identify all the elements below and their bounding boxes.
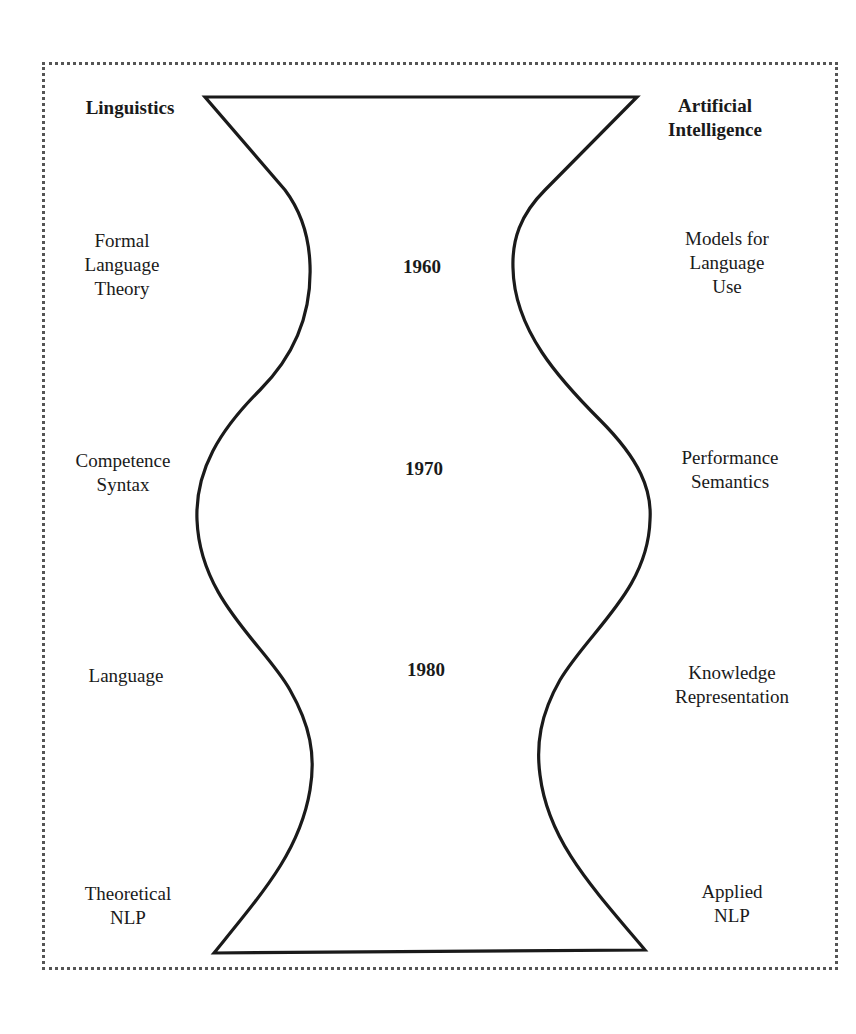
year-1960: 1960	[403, 256, 441, 278]
year-1980: 1980	[407, 659, 445, 681]
hourglass-shape	[0, 0, 856, 1034]
right-label-models-for-language-use: Models for Language Use	[685, 227, 769, 299]
left-label-language: Language	[89, 664, 164, 688]
right-label-applied-nlp: Applied NLP	[701, 880, 762, 928]
ai-header: Artificial Intelligence	[668, 94, 762, 142]
left-label-competence-syntax: Competence Syntax	[76, 449, 171, 497]
linguistics-header: Linguistics	[86, 96, 175, 120]
right-label-performance-semantics: Performance Semantics	[681, 446, 778, 494]
left-label-formal-language-theory: Formal Language Theory	[85, 229, 160, 301]
right-label-knowledge-representation: Knowledge Representation	[675, 661, 789, 709]
left-label-theoretical-nlp: Theoretical NLP	[85, 882, 172, 930]
year-1970: 1970	[405, 458, 443, 480]
